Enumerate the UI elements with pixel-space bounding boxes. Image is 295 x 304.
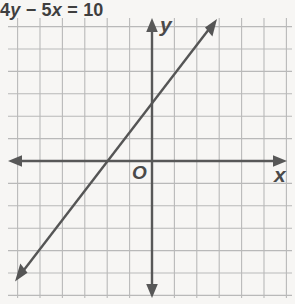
x-axis-arrow-left [8,155,22,167]
y-axis-label: y [160,14,172,35]
plotted-line-4y-5x-10 [15,19,217,282]
plotted-line-arrow-upper-right [205,19,217,37]
origin-label: O [132,163,147,182]
coordinate-plane [0,0,295,304]
graph-figure: y x O 4y − 5x = 10 [0,0,295,304]
x-axis-label: x [274,164,286,185]
y-axis [146,18,158,298]
y-axis-arrow-up [146,18,158,32]
x-axis [8,155,287,167]
